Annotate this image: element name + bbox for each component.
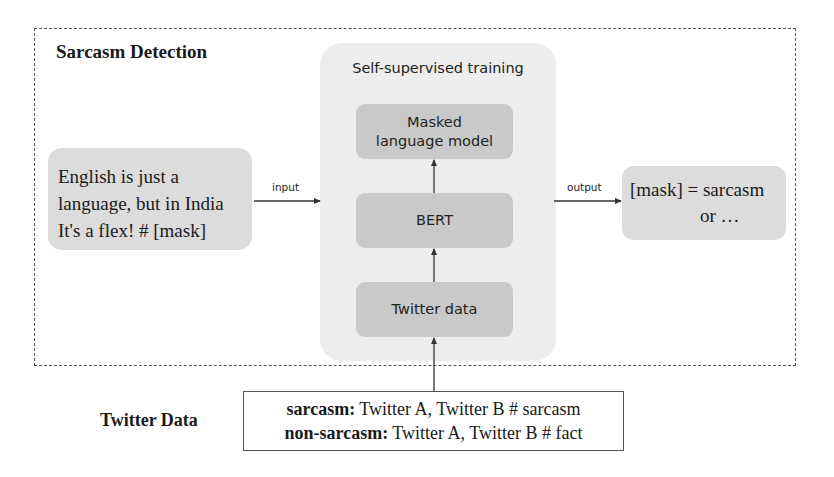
- twitter-data-examples-box: sarcasm: Twitter A, Twitter B # sarcasm …: [243, 391, 624, 451]
- input-arrow-label: input: [272, 181, 299, 193]
- mlm-line-1: Masked: [376, 113, 493, 132]
- data-row-non-sarcasm-label: non-sarcasm:: [285, 423, 389, 443]
- data-row-sarcasm-text: Twitter A, Twitter B # sarcasm: [355, 399, 580, 419]
- input-line-2: language, but in India: [58, 190, 252, 217]
- input-example-box: English is just a language, but in India…: [48, 148, 252, 250]
- input-line-3: It's a flex! # [mask]: [58, 217, 252, 244]
- data-row-non-sarcasm-text: Twitter A, Twitter B # fact: [388, 423, 582, 443]
- data-row-sarcasm-label: sarcasm:: [287, 399, 356, 419]
- twitter-data-title: Twitter Data: [100, 410, 198, 431]
- data-row-non-sarcasm: non-sarcasm: Twitter A, Twitter B # fact: [244, 421, 623, 445]
- mlm-line-2: language model: [376, 132, 493, 151]
- twitter-data-module-label: Twitter data: [392, 300, 478, 319]
- output-line-1: [mask] = sarcasm: [630, 177, 786, 203]
- self-supervised-training-label: Self-supervised training: [320, 60, 556, 76]
- output-box: [mask] = sarcasm or …: [622, 166, 786, 240]
- bert-box: BERT: [356, 193, 513, 248]
- sarcasm-detection-title: Sarcasm Detection: [56, 41, 207, 63]
- output-arrow-label: output: [567, 181, 602, 193]
- bert-label: BERT: [416, 211, 453, 230]
- data-row-sarcasm: sarcasm: Twitter A, Twitter B # sarcasm: [244, 397, 623, 421]
- twitter-data-module-box: Twitter data: [356, 282, 513, 337]
- output-line-2: or …: [630, 203, 786, 229]
- masked-language-model-box: Masked language model: [356, 104, 513, 159]
- input-line-1: English is just a: [58, 163, 252, 190]
